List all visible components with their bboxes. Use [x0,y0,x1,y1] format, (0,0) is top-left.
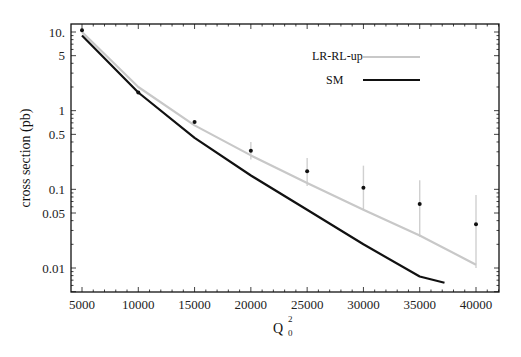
data-point [193,120,197,124]
data-point [474,222,478,226]
chart: 500010000150002000025000300003500040000 … [0,0,521,357]
x-tick-label: 25000 [291,297,324,312]
y-axis-label: cross section (pb) [18,108,34,207]
x-axis-label-main: Q [273,321,283,336]
x-tick-label: 40000 [460,297,493,312]
y-tick-label: 0.1 [49,182,65,197]
data-point [249,149,253,153]
y-tick-label: 0.05 [42,206,65,221]
x-tick-label: 5000 [69,297,95,312]
x-axis-label-sup: 2 [288,314,293,324]
data-point [136,91,140,95]
x-axis-ticks: 500010000150002000025000300003500040000 [69,24,499,312]
y-tick-label: 10. [49,25,65,40]
y-tick-label: 5 [59,48,66,63]
x-axis-label-sub: 0 [288,328,293,338]
series-lr-rl-up [82,32,476,265]
data-point [80,28,84,32]
series-lines [82,32,476,283]
data-point [305,169,309,173]
x-tick-label: 35000 [403,297,436,312]
y-tick-label: 0.01 [42,261,65,276]
y-tick-label: 1 [59,103,66,118]
data-point [361,186,365,190]
x-tick-label: 30000 [347,297,380,312]
y-tick-label: 0.5 [49,127,65,142]
plot-frame [71,24,499,292]
legend-label-sm: SM [326,73,344,87]
x-tick-label: 20000 [235,297,268,312]
legend: LR-RL-up SM [312,49,420,87]
x-axis-label: Q 2 0 [273,314,293,338]
x-tick-label: 10000 [122,297,155,312]
series-sm [82,36,445,283]
x-tick-label: 15000 [178,297,211,312]
data-point [418,202,422,206]
legend-label-lr-rl-up: LR-RL-up [312,49,363,63]
error-bars [251,142,476,268]
